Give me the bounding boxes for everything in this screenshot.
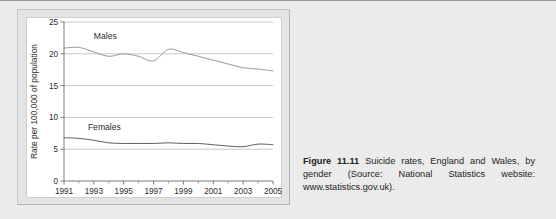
- x-tick-label: 2005: [264, 187, 283, 196]
- x-tick-label: 1995: [115, 187, 134, 196]
- page-top-rule: [0, 0, 556, 1]
- y-tick-label: 15: [49, 82, 59, 91]
- y-tick-label: 25: [49, 18, 59, 27]
- y-tick-label: 5: [53, 145, 58, 154]
- series-label-females: Females: [88, 122, 121, 132]
- figure-caption: Figure 11.11 Suicide rates, England and …: [303, 155, 535, 195]
- x-tick-label: 2001: [204, 187, 223, 196]
- figure-caption-lead: Figure 11.11: [303, 156, 359, 166]
- x-tick-label: 1997: [144, 187, 163, 196]
- x-tick-label: 1991: [55, 187, 74, 196]
- x-tick-label: 1999: [174, 187, 193, 196]
- y-tick-label: 10: [49, 113, 59, 122]
- y-tick-label: 0: [53, 177, 58, 186]
- x-tick-label: 1993: [85, 187, 104, 196]
- series-labels-group: MalesFemales: [88, 31, 121, 133]
- tick-labels-group: 0510152025199119931995199719992001200320…: [49, 18, 283, 196]
- suicide-rates-line-chart: 0510152025199119931995199719992001200320…: [17, 9, 290, 205]
- series-line-males: [64, 47, 273, 71]
- series-line-females: [64, 138, 273, 147]
- ticks-group: [61, 22, 274, 185]
- y-tick-label: 20: [49, 50, 59, 59]
- x-tick-label: 2003: [234, 187, 253, 196]
- y-axis-title: Rate per 100,000 of population: [29, 44, 39, 159]
- series-label-males: Males: [94, 31, 117, 41]
